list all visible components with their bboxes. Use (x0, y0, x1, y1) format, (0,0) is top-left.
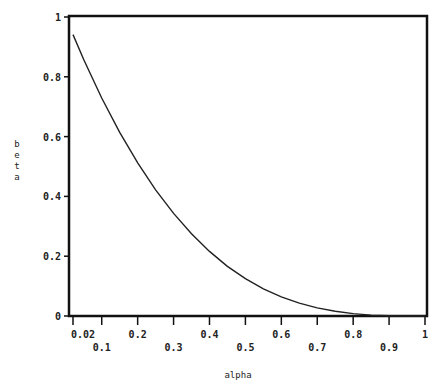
x-tick-label: 0.3 (165, 342, 183, 353)
x-tick-label: 0.02 (71, 329, 95, 340)
y-tick-label: 0.4 (43, 191, 61, 202)
x-axis-ticks: 0.020.10.20.30.40.50.60.70.80.91 (71, 317, 428, 353)
x-tick-label: 0.8 (344, 329, 362, 340)
x-tick-label: 0.5 (236, 342, 254, 353)
y-axis-label-letter: a (14, 172, 19, 182)
x-tick-label: 0.4 (200, 329, 218, 340)
y-axis-label-letter: t (14, 161, 19, 171)
x-tick-label: 0.6 (272, 329, 290, 340)
y-axis-label-letter: e (14, 150, 19, 160)
y-axis-label: beta (14, 139, 19, 182)
x-axis-label: alpha (224, 370, 251, 380)
x-tick-label: 0.2 (129, 329, 147, 340)
x-tick-label: 0.9 (380, 342, 398, 353)
y-tick-label: 0.6 (43, 132, 61, 143)
y-tick-label: 1 (55, 12, 61, 23)
chart: 00.20.40.60.81 0.020.10.20.30.40.50.60.7… (0, 0, 439, 391)
y-axis-ticks: 00.20.40.60.81 (43, 12, 69, 322)
x-tick-label: 1 (422, 329, 428, 340)
y-axis-label-letter: b (14, 139, 19, 149)
y-tick-label: 0 (55, 311, 61, 322)
data-line (73, 35, 425, 316)
y-tick-label: 0.2 (43, 251, 61, 262)
plot-frame (69, 16, 427, 316)
x-tick-label: 0.1 (93, 342, 111, 353)
x-tick-label: 0.7 (308, 342, 326, 353)
y-tick-label: 0.8 (43, 72, 61, 83)
